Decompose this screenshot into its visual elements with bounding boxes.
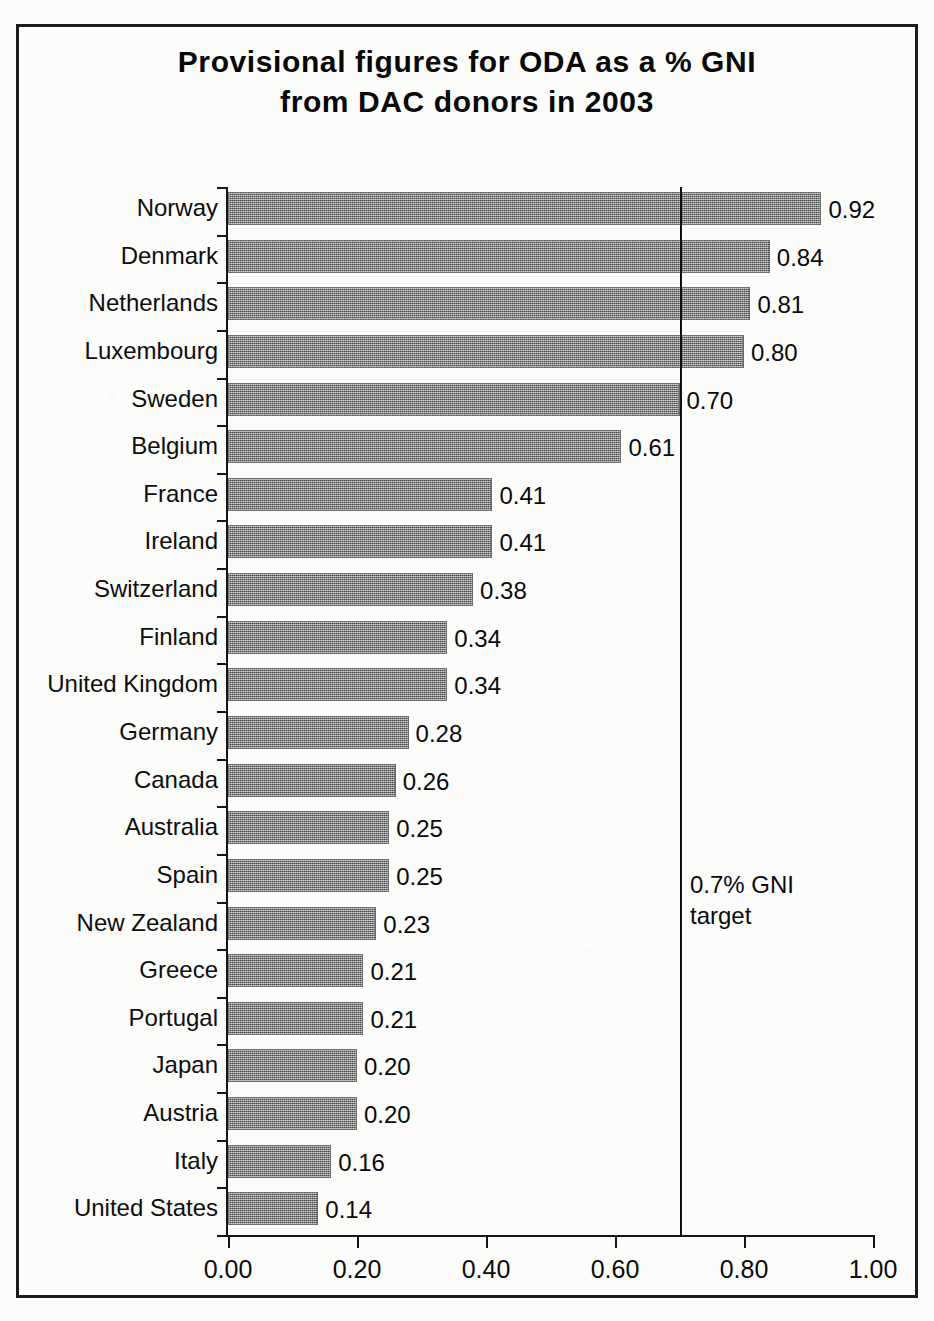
category-label: Portugal [0, 1004, 218, 1032]
bar [228, 525, 492, 558]
x-axis-tick-label: 0.40 [431, 1255, 541, 1284]
bar-value-label: 0.34 [454, 625, 501, 653]
y-axis-tick [217, 806, 227, 808]
bar [228, 335, 744, 368]
bar-value-label: 0.92 [828, 196, 875, 224]
bar-row: United States0.14 [228, 1187, 873, 1235]
x-axis-tick-label: 1.00 [818, 1255, 928, 1284]
x-axis-tick-label: 0.20 [302, 1255, 412, 1284]
y-axis-tick [217, 425, 227, 427]
bar-value-label: 0.80 [751, 339, 798, 367]
bar-value-label: 0.16 [338, 1149, 385, 1177]
bar-value-label: 0.25 [396, 815, 443, 843]
bar-row: Portugal0.21 [228, 997, 873, 1045]
y-axis-tick [217, 378, 227, 380]
bar-row: Australia0.25 [228, 806, 873, 854]
bar [228, 907, 376, 940]
bar-row: Austria0.20 [228, 1092, 873, 1140]
y-axis-tick [217, 1092, 227, 1094]
bar-row: Switzerland0.38 [228, 568, 873, 616]
bar-row: France0.41 [228, 473, 873, 521]
bar [228, 621, 447, 654]
bar-value-label: 0.38 [480, 577, 527, 605]
bar-value-label: 0.26 [403, 768, 450, 796]
bar-value-label: 0.25 [396, 863, 443, 891]
x-axis-tick-label: 0.60 [560, 1255, 670, 1284]
bar-row: Sweden0.70 [228, 378, 873, 426]
y-axis-tick [217, 902, 227, 904]
category-label: Canada [0, 766, 218, 794]
y-axis-tick [217, 473, 227, 475]
bar-row: Greece0.21 [228, 949, 873, 997]
y-axis-tick [217, 663, 227, 665]
y-axis-tick [217, 520, 227, 522]
bar [228, 859, 389, 892]
y-axis-tick [217, 1140, 227, 1142]
category-label: Greece [0, 956, 218, 984]
bar-row: Belgium0.61 [228, 425, 873, 473]
bar [228, 764, 396, 797]
category-label: United States [0, 1194, 218, 1222]
y-axis-tick [217, 711, 227, 713]
bar-row: Luxembourg0.80 [228, 330, 873, 378]
x-axis-tick [486, 1237, 488, 1248]
bar-value-label: 0.21 [370, 1006, 417, 1034]
bar-row: Denmark0.84 [228, 235, 873, 283]
y-axis-tick [217, 1187, 227, 1189]
category-label: Belgium [0, 432, 218, 460]
bar-value-label: 0.21 [370, 958, 417, 986]
bar [228, 573, 473, 606]
category-label: France [0, 480, 218, 508]
bar-row: Finland0.34 [228, 616, 873, 664]
bar [228, 192, 821, 225]
chart-page: Provisional figures for ODA as a % GNI f… [0, 0, 934, 1321]
category-label: Australia [0, 813, 218, 841]
category-label: Denmark [0, 242, 218, 270]
category-label: Spain [0, 861, 218, 889]
category-label: Japan [0, 1051, 218, 1079]
category-label: Austria [0, 1099, 218, 1127]
bar-row: Japan0.20 [228, 1044, 873, 1092]
x-axis-tick [615, 1237, 617, 1248]
y-axis-tick [217, 282, 227, 284]
category-label: Ireland [0, 527, 218, 555]
bar-row: Ireland0.41 [228, 520, 873, 568]
x-axis-tick-label: 0.80 [689, 1255, 799, 1284]
bar [228, 954, 363, 987]
y-axis-tick [217, 330, 227, 332]
y-axis-tick [217, 1044, 227, 1046]
bar-value-label: 0.84 [777, 244, 824, 272]
bar [228, 1097, 357, 1130]
bar [228, 430, 621, 463]
gni-target-reference-line [680, 187, 682, 1235]
x-axis-line [226, 1235, 875, 1237]
category-label: Germany [0, 718, 218, 746]
y-axis-tick [217, 1235, 227, 1237]
category-label: Luxembourg [0, 337, 218, 365]
bar [228, 668, 447, 701]
bar-value-label: 0.23 [383, 911, 430, 939]
bar-row: Italy0.16 [228, 1140, 873, 1188]
bar [228, 478, 492, 511]
bar [228, 1002, 363, 1035]
bar-row: Germany0.28 [228, 711, 873, 759]
bar-value-label: 0.34 [454, 672, 501, 700]
x-axis-tick [873, 1237, 875, 1248]
bar [228, 1192, 318, 1225]
bar [228, 383, 680, 416]
x-axis-tick [228, 1237, 230, 1248]
chart-title: Provisional figures for ODA as a % GNI f… [16, 42, 918, 122]
bar-value-label: 0.61 [628, 434, 675, 462]
bar-value-label: 0.20 [364, 1053, 411, 1081]
bar-value-label: 0.14 [325, 1196, 372, 1224]
y-axis-tick [217, 949, 227, 951]
bar-row: Norway0.92 [228, 187, 873, 235]
category-label: United Kingdom [0, 670, 218, 698]
y-axis-tick [217, 235, 227, 237]
bar-value-label: 0.28 [416, 720, 463, 748]
x-axis-tick [357, 1237, 359, 1248]
category-label: Italy [0, 1147, 218, 1175]
bar [228, 1049, 357, 1082]
category-label: Sweden [0, 385, 218, 413]
category-label: New Zealand [0, 909, 218, 937]
